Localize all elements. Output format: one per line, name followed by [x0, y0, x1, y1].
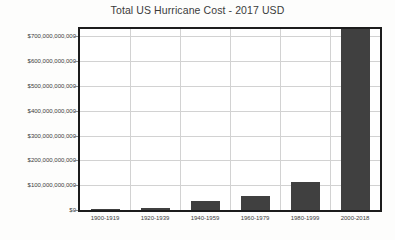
y-axis-tick-label: $200,000,000,000 — [2, 157, 76, 163]
gridline-vertical — [330, 29, 331, 210]
x-axis-tick-label: 1980-1999 — [280, 215, 330, 221]
y-axis-tick-label: $500,000,000,000 — [2, 83, 76, 89]
plot-inner — [80, 29, 380, 210]
y-axis-tick-label: $400,000,000,000 — [2, 108, 76, 114]
gridline-vertical — [180, 29, 181, 210]
y-axis-tick-label: $700,000,000,000 — [2, 33, 76, 39]
chart-title: Total US Hurricane Cost - 2017 USD — [0, 4, 395, 16]
y-axis: $0$100,000,000,000$200,000,000,000$300,0… — [0, 27, 76, 212]
x-axis-tick-label: 1920-1939 — [130, 215, 180, 221]
bar — [141, 208, 170, 210]
plot-area — [78, 27, 382, 212]
chart-screenshot: Total US Hurricane Cost - 2017 USD $0$10… — [0, 0, 395, 240]
gridline-vertical — [280, 29, 281, 210]
bar — [191, 201, 220, 210]
y-axis-tick-label: $100,000,000,000 — [2, 182, 76, 188]
y-axis-tick-label: $300,000,000,000 — [2, 133, 76, 139]
y-axis-tick-label: $0 — [2, 207, 76, 213]
x-axis-tick-label: 1940-1959 — [180, 215, 230, 221]
bar — [241, 196, 270, 210]
x-axis-tick-label: 2000-2018 — [330, 215, 380, 221]
gridline-vertical — [230, 29, 231, 210]
bar — [291, 182, 320, 210]
y-axis-tick-label: $600,000,000,000 — [2, 58, 76, 64]
gridline-vertical — [130, 29, 131, 210]
bar — [341, 29, 370, 210]
x-axis: 1900-19191920-19391940-19591960-19791980… — [78, 215, 382, 229]
x-axis-tick-label: 1900-1919 — [80, 215, 130, 221]
bar — [91, 209, 120, 210]
x-axis-tick-label: 1960-1979 — [230, 215, 280, 221]
